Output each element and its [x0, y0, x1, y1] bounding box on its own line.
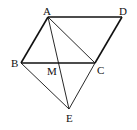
segment-BE: [21, 63, 69, 109]
label-B: B: [11, 57, 18, 69]
label-M: M: [47, 65, 57, 77]
segment-AC: [48, 17, 95, 63]
diagram-canvas: A D B C M E: [0, 0, 137, 130]
label-E: E: [66, 112, 73, 124]
geometry-diagram: A D B C M E: [0, 0, 137, 130]
segment-CD: [95, 17, 122, 63]
label-A: A: [43, 5, 51, 17]
label-D: D: [119, 5, 127, 17]
segment-AB: [21, 17, 48, 63]
segment-CE: [69, 63, 95, 109]
label-C: C: [97, 64, 104, 76]
